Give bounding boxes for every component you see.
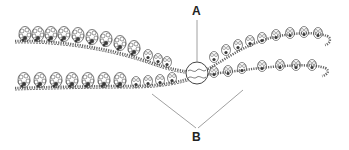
label-a: A <box>192 5 201 17</box>
leader-line-b-left <box>152 94 196 128</box>
crossover-circle <box>186 62 208 84</box>
leader-line-b-right <box>198 90 243 128</box>
label-b: B <box>192 131 201 143</box>
chromosome-diagram <box>0 0 349 150</box>
